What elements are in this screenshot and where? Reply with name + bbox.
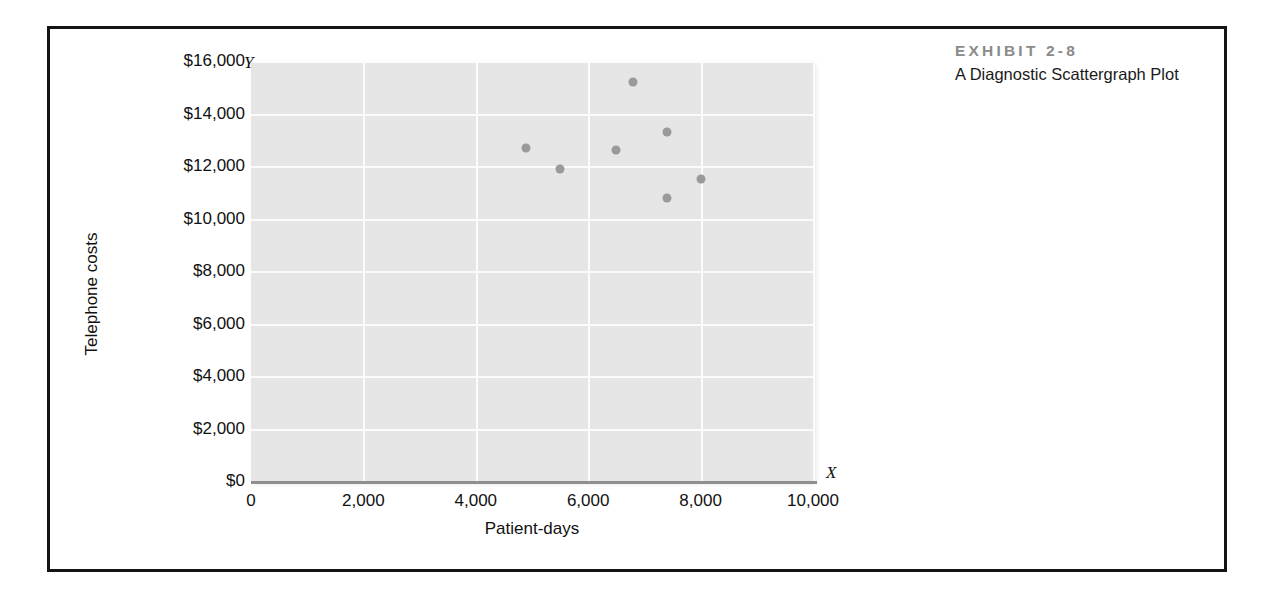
y-axis-tick-label: $8,000 <box>193 261 245 281</box>
data-point <box>662 127 671 136</box>
exhibit-frame: $0$2,000$4,000$6,000$8,000$10,000$12,000… <box>47 26 1227 572</box>
data-point <box>629 78 638 87</box>
y-axis-tick-label: $6,000 <box>193 314 245 334</box>
x-axis-mark: X <box>826 463 836 483</box>
x-axis-title: Patient-days <box>251 519 813 539</box>
plot-area <box>251 61 813 481</box>
data-point <box>612 146 621 155</box>
y-axis-tick-label: $0 <box>226 471 245 491</box>
gridline-vertical <box>588 61 590 481</box>
y-axis-title: Telephone costs <box>82 204 102 384</box>
gridline-horizontal <box>251 166 813 168</box>
data-point <box>696 175 705 184</box>
gridline-horizontal <box>251 429 813 431</box>
data-point <box>662 193 671 202</box>
scattergraph-chart: $0$2,000$4,000$6,000$8,000$10,000$12,000… <box>50 29 1230 569</box>
x-axis-line <box>251 481 817 484</box>
gridline-horizontal <box>251 61 813 63</box>
y-axis-mark: Y <box>244 53 253 73</box>
y-axis-tick-label: $2,000 <box>193 419 245 439</box>
y-axis-tick-label: $10,000 <box>184 209 245 229</box>
gridline-vertical <box>476 61 478 481</box>
x-axis-tick-label: 4,000 <box>455 491 498 511</box>
y-axis-tick-label: $12,000 <box>184 156 245 176</box>
gridline-horizontal <box>251 219 813 221</box>
x-axis-tick-label: 10,000 <box>787 491 839 511</box>
data-point <box>556 164 565 173</box>
gridline-vertical <box>701 61 703 481</box>
y-axis-tick-label: $14,000 <box>184 104 245 124</box>
y-axis-ticks: $0$2,000$4,000$6,000$8,000$10,000$12,000… <box>110 29 245 569</box>
gridline-horizontal <box>251 271 813 273</box>
x-axis-tick-label: 0 <box>246 491 255 511</box>
exhibit-subtitle: A Diagnostic Scattergraph Plot <box>955 63 1255 85</box>
x-axis-tick-label: 6,000 <box>567 491 610 511</box>
x-axis-tick-label: 2,000 <box>342 491 385 511</box>
exhibit-caption: EXHIBIT 2-8 A Diagnostic Scattergraph Pl… <box>955 41 1255 85</box>
x-axis-tick-label: 8,000 <box>679 491 722 511</box>
gridline-horizontal <box>251 376 813 378</box>
y-axis-tick-label: $4,000 <box>193 366 245 386</box>
data-point <box>522 143 531 152</box>
gridline-vertical <box>363 61 365 481</box>
exhibit-number: EXHIBIT 2-8 <box>955 41 1255 61</box>
y-axis-tick-label: $16,000 <box>184 51 245 71</box>
gridline-horizontal <box>251 114 813 116</box>
gridline-vertical <box>813 61 815 481</box>
gridline-horizontal <box>251 324 813 326</box>
